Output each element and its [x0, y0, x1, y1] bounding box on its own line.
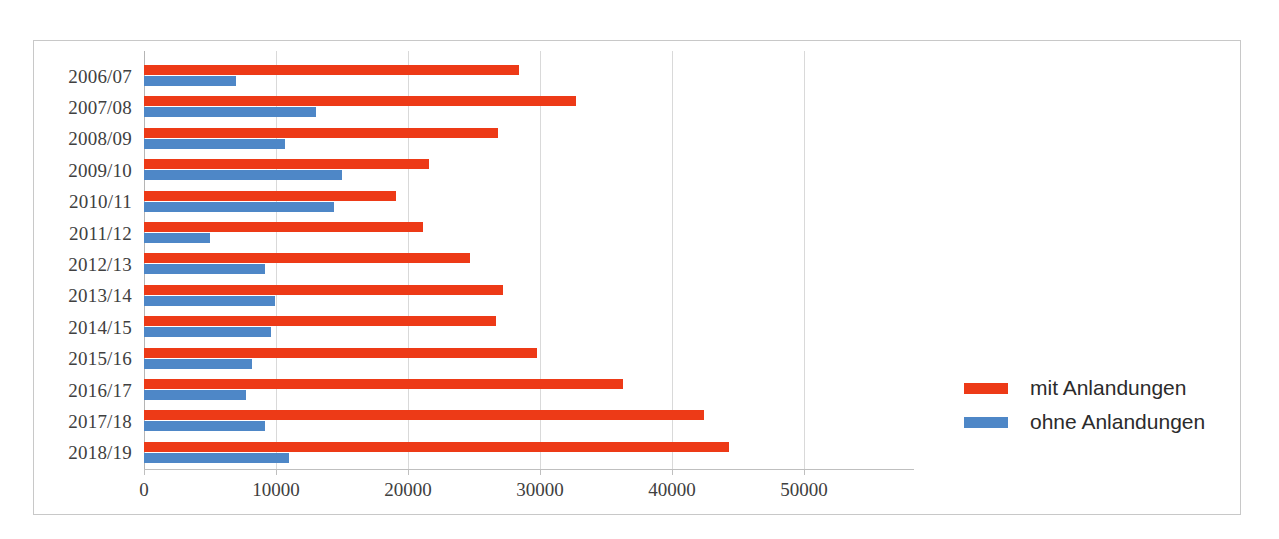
- x-tick-label: 0: [139, 479, 149, 501]
- x-tick-label: 40000: [648, 479, 696, 501]
- bar-ohne-anlandungen: [144, 359, 252, 369]
- x-tick-40000: [672, 469, 673, 475]
- bar-ohne-anlandungen: [144, 421, 265, 431]
- bar-mit-anlandungen: [144, 222, 423, 232]
- legend-swatch-icon: [964, 383, 1008, 394]
- bar-row: 2011/12: [144, 218, 914, 249]
- bar-ohne-anlandungen: [144, 107, 316, 117]
- category-label: 2006/07: [68, 66, 132, 88]
- category-label: 2014/15: [68, 317, 132, 339]
- bar-row: 2013/14: [144, 281, 914, 312]
- x-tick-0: [144, 469, 145, 475]
- bar-ohne-anlandungen: [144, 139, 285, 149]
- category-label: 2017/18: [68, 411, 132, 433]
- bar-mit-anlandungen: [144, 128, 498, 138]
- x-tick-50000: [804, 469, 805, 475]
- legend-item[interactable]: ohne Anlandungen: [964, 405, 1205, 439]
- x-tick-label: 50000: [780, 479, 828, 501]
- bar-mit-anlandungen: [144, 379, 623, 389]
- plot-area: 2006/072007/082008/092009/102010/112011/…: [144, 51, 914, 469]
- bar-mit-anlandungen: [144, 316, 496, 326]
- bar-ohne-anlandungen: [144, 202, 334, 212]
- bar-row: 2012/13: [144, 249, 914, 280]
- bar-ohne-anlandungen: [144, 453, 289, 463]
- x-axis: 01000020000300004000050000: [144, 469, 914, 470]
- category-label: 2016/17: [68, 380, 132, 402]
- legend-label: mit Anlandungen: [1030, 376, 1186, 400]
- bar-row: 2007/08: [144, 92, 914, 123]
- bar-mit-anlandungen: [144, 285, 503, 295]
- bar-mit-anlandungen: [144, 96, 576, 106]
- bar-rows: 2006/072007/082008/092009/102010/112011/…: [144, 51, 914, 469]
- bar-ohne-anlandungen: [144, 233, 210, 243]
- legend-item[interactable]: mit Anlandungen: [964, 371, 1205, 405]
- category-label: 2010/11: [69, 191, 132, 213]
- bar-row: 2009/10: [144, 155, 914, 186]
- bar-mit-anlandungen: [144, 410, 704, 420]
- chart-legend: mit Anlandungenohne Anlandungen: [964, 371, 1205, 439]
- bar-mit-anlandungen: [144, 65, 519, 75]
- bar-mit-anlandungen: [144, 348, 537, 358]
- bar-ohne-anlandungen: [144, 296, 275, 306]
- x-tick-label: 30000: [516, 479, 564, 501]
- legend-swatch-icon: [964, 417, 1008, 428]
- bar-row: 2018/19: [144, 438, 914, 469]
- category-label: 2015/16: [68, 348, 132, 370]
- category-label: 2018/19: [68, 442, 132, 464]
- x-tick-label: 20000: [384, 479, 432, 501]
- bar-row: 2016/17: [144, 375, 914, 406]
- x-tick-10000: [276, 469, 277, 475]
- category-label: 2011/12: [69, 223, 132, 245]
- bar-ohne-anlandungen: [144, 390, 246, 400]
- category-label: 2012/13: [68, 254, 132, 276]
- bar-row: 2008/09: [144, 124, 914, 155]
- bar-row: 2010/11: [144, 187, 914, 218]
- bar-mit-anlandungen: [144, 159, 429, 169]
- x-tick-30000: [540, 469, 541, 475]
- category-label: 2008/09: [68, 128, 132, 150]
- legend-label: ohne Anlandungen: [1030, 410, 1205, 434]
- x-tick-label: 10000: [252, 479, 300, 501]
- bar-mit-anlandungen: [144, 253, 470, 263]
- bar-ohne-anlandungen: [144, 170, 342, 180]
- bar-row: 2017/18: [144, 406, 914, 437]
- category-label: 2013/14: [68, 285, 132, 307]
- bar-mit-anlandungen: [144, 191, 396, 201]
- bar-row: 2015/16: [144, 344, 914, 375]
- bar-ohne-anlandungen: [144, 327, 271, 337]
- bar-row: 2006/07: [144, 61, 914, 92]
- x-tick-20000: [408, 469, 409, 475]
- category-label: 2007/08: [68, 97, 132, 119]
- bar-ohne-anlandungen: [144, 264, 265, 274]
- bar-ohne-anlandungen: [144, 76, 236, 86]
- bar-mit-anlandungen: [144, 442, 729, 452]
- category-label: 2009/10: [68, 160, 132, 182]
- chart-frame: 2006/072007/082008/092009/102010/112011/…: [33, 40, 1241, 515]
- bar-row: 2014/15: [144, 312, 914, 343]
